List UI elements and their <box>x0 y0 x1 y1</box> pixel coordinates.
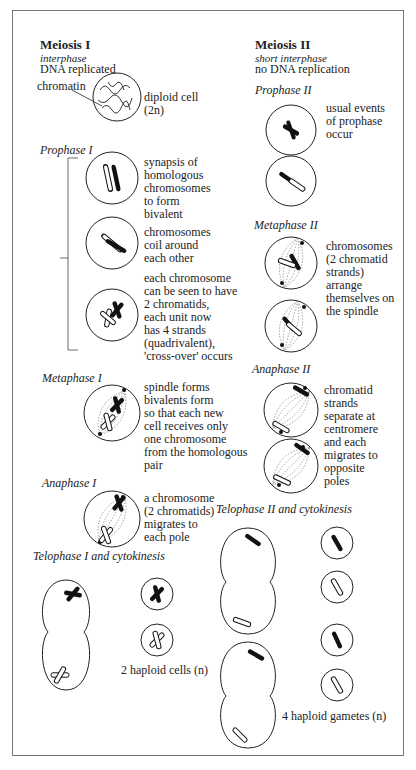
anaphase2-text: chromatid strands separate at centromere… <box>324 384 378 488</box>
anaphase1-text: a chromosome (2 chromatids) migrates to … <box>144 492 214 544</box>
telophase1-dividing-cell <box>42 580 89 690</box>
metaphase2-text: chromosomes (2 chromatid strands) arrang… <box>326 240 394 318</box>
prophase1-cell-2 <box>86 217 138 269</box>
prophase1-label: Prophase I <box>40 144 93 157</box>
meiosis1-note: DNA replicated <box>40 63 116 76</box>
metaphase2-label: Metaphase II <box>254 219 318 232</box>
diploid-label: diploid cell (2n) <box>144 91 198 117</box>
anaphase2-label: Anaphase II <box>252 363 310 376</box>
telophase1-result: 2 haploid cells (n) <box>121 664 208 677</box>
meiosis1-title: Meiosis I <box>40 38 90 51</box>
haploid-cell-1 <box>141 578 173 610</box>
haploid-cell-2 <box>141 624 173 656</box>
anaphase1-cell <box>84 491 140 547</box>
prophase2-label: Prophase II <box>255 84 312 97</box>
gamete-4 <box>321 669 353 701</box>
prophase2-cell-1 <box>266 105 316 155</box>
prophase1-stage3-text: each chromosome can be seen to have 2 ch… <box>144 272 237 363</box>
metaphase2-cell-2 <box>265 298 317 354</box>
prophase2-cell-2 <box>266 156 316 206</box>
chromatin-label: chromatin <box>37 80 86 93</box>
metaphase1-cell <box>84 385 140 441</box>
metaphase1-label: Metaphase I <box>42 372 102 385</box>
telophase2-result: 4 haploid gametes (n) <box>282 710 386 723</box>
telophase2-label: Telophase II and cytokinesis <box>216 503 352 516</box>
metaphase1-text: spindle forms bivalents form so that eac… <box>144 381 247 472</box>
anaphase2-cell-1 <box>264 383 318 437</box>
metaphase2-cell-1 <box>265 235 317 291</box>
telophase2-dividing-cell-2 <box>221 642 276 748</box>
prophase1-cell-1 <box>86 152 138 204</box>
prophase2-text: usual events of prophase occur <box>326 102 385 141</box>
telophase2-dividing-cell-1 <box>221 528 276 634</box>
gamete-3 <box>321 624 353 656</box>
anaphase2-cell-2 <box>264 439 318 493</box>
anaphase1-label: Anaphase I <box>42 477 96 490</box>
meiosis2-note: no DNA replication <box>255 63 350 76</box>
prophase1-cell-3 <box>86 289 138 341</box>
gamete-2 <box>321 571 353 603</box>
prophase1-stage2-text: chromosomes coil around each other <box>144 226 211 265</box>
prophase-bracket <box>60 158 78 350</box>
prophase1-stage1-text: synapsis of homologous chromosomes to fo… <box>144 156 211 221</box>
telophase1-label: Telophase I and cytokinesis <box>33 550 165 563</box>
meiosis2-title: Meiosis II <box>255 38 310 51</box>
gamete-1 <box>321 527 353 559</box>
